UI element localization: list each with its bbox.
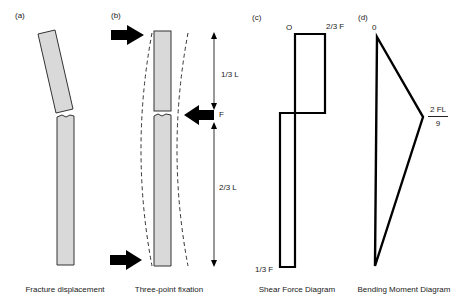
bending-moment-plot [375, 37, 423, 266]
left-dashed-curve [141, 33, 152, 266]
moment-peak-label: 2 FL 9 [428, 106, 448, 128]
diagram-canvas [0, 0, 467, 304]
arrow-down-icon [211, 260, 217, 267]
panel-b [110, 25, 217, 270]
panel-d-caption: Bending Moment Diagram [358, 286, 451, 294]
upper-beam [154, 31, 171, 111]
panel-d-label: (d) [358, 14, 368, 22]
lower-beam [154, 114, 171, 266]
right-dashed-curve [177, 33, 188, 266]
panel-c-caption: Shear Force Diagram [259, 286, 335, 294]
panel-a-caption: Fracture displacement [25, 286, 104, 294]
shear-force-plot [280, 34, 325, 267]
arrow-up-icon [211, 122, 217, 129]
panel-a-bone [38, 30, 74, 265]
force-label: F [219, 111, 224, 119]
moment-peak-numerator: 2 FL [428, 106, 448, 117]
upper-bone-fragment [38, 30, 73, 113]
bottom-force-arrow-icon [110, 250, 142, 270]
panel-c-label: (c) [252, 14, 261, 22]
lower-segment-label: 2/3 L [219, 184, 237, 192]
arrow-down-icon [211, 103, 217, 110]
moment-peak-denominator: 9 [428, 117, 448, 128]
shear-top-value-label: 2/3 F [326, 23, 344, 31]
top-force-arrow-icon [111, 25, 144, 45]
moment-origin-label: 0 [372, 24, 376, 32]
panel-a-label: (a) [15, 12, 25, 20]
lower-bone-fragment [57, 115, 74, 265]
shear-bottom-value-label: 1/3 F [255, 266, 273, 274]
dimension-arrows [211, 32, 217, 267]
middle-force-arrow-icon [184, 105, 214, 125]
panel-b-label: (b) [111, 12, 121, 20]
shear-origin-label: O [286, 24, 292, 32]
arrow-up-icon [211, 32, 217, 39]
panel-b-caption: Three-point fixation [135, 286, 203, 294]
upper-segment-label: 1/3 L [221, 71, 239, 79]
